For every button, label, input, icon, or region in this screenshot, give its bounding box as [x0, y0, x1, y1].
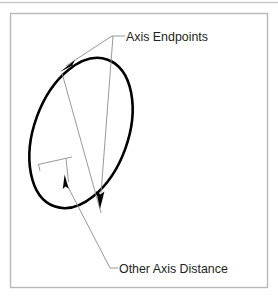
label-axis-endpoints: Axis Endpoints [126, 30, 208, 44]
axis-endpoints-leader-to-top [66, 36, 112, 66]
ellipse-axis-diagram: Axis Endpoints Other Axis Distance [0, 0, 278, 301]
label-other-axis-distance: Other Axis Distance [119, 262, 228, 276]
figure-border [11, 14, 268, 288]
major-axis-line [62, 73, 101, 213]
other-axis-leader-line [67, 184, 111, 268]
minor-axis-left-stub [39, 165, 41, 172]
minor-axis-vertical-stub [66, 159, 69, 183]
diagram-canvas: Axis Endpoints Other Axis Distance [0, 0, 278, 301]
main-ellipse [10, 44, 152, 223]
